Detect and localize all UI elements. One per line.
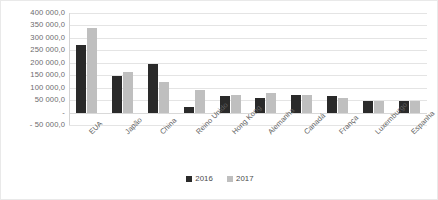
legend-label: 2017 <box>236 174 254 183</box>
y-axis-tick-label: 250 000,0 <box>1 46 65 54</box>
bar-2017 <box>123 72 133 112</box>
x-axis-tick: China <box>141 125 177 171</box>
bar-group <box>176 13 212 125</box>
x-axis-tick: Canadá <box>284 125 320 171</box>
x-axis-tick: Japão <box>105 125 141 171</box>
x-axis-tick: Hong Kong <box>212 125 248 171</box>
y-axis-tick-label: 200 000,0 <box>1 59 65 67</box>
bar-2016 <box>148 64 158 113</box>
x-axis-tick: Luxemburgo <box>355 125 391 171</box>
bar-2016 <box>184 107 194 113</box>
bar-2016 <box>76 45 86 112</box>
y-axis: 400 000,0350 000,0300 000,0250 000,0200 … <box>1 13 65 125</box>
bar-2017 <box>302 95 312 112</box>
y-axis-tick-label: 50 000,0 <box>1 96 65 104</box>
bar-group <box>320 13 356 125</box>
bars-layer <box>69 13 427 125</box>
bar-group <box>105 13 141 125</box>
bar-2016 <box>327 96 337 112</box>
y-axis-tick-label: 300 000,0 <box>1 34 65 42</box>
legend-item-2016[interactable]: 2016 <box>186 174 213 183</box>
legend-item-2017[interactable]: 2017 <box>227 174 254 183</box>
y-axis-tick-label: 100 000,0 <box>1 84 65 92</box>
chart-legend: 20162017 <box>1 174 438 183</box>
x-axis-tick: Reino Unido <box>176 125 212 171</box>
legend-swatch-icon <box>186 176 192 182</box>
bar-2016 <box>363 101 373 113</box>
bar-2017 <box>266 93 276 113</box>
bar-2017 <box>410 101 420 113</box>
bar-2016 <box>112 76 122 113</box>
legend-label: 2016 <box>195 174 213 183</box>
x-axis-tick: França <box>320 125 356 171</box>
bar-group <box>69 13 105 125</box>
bar-group <box>355 13 391 125</box>
y-axis-tick-label: - <box>1 109 65 117</box>
bar-2017 <box>374 101 384 113</box>
bar-2017 <box>159 82 169 113</box>
bar-2017 <box>338 98 348 112</box>
y-axis-tick-label: 350 000,0 <box>1 21 65 29</box>
x-axis-tick: Alemanha <box>248 125 284 171</box>
bar-2017 <box>231 95 241 113</box>
x-axis-tick: EUA <box>69 125 105 171</box>
bar-2017 <box>195 90 205 113</box>
y-axis-tick-label: 400 000,0 <box>1 9 65 17</box>
bar-group <box>141 13 177 125</box>
legend-swatch-icon <box>227 176 233 182</box>
bar-2017 <box>87 28 97 112</box>
y-axis-tick-label: 150 000,0 <box>1 71 65 79</box>
x-axis-tick: Espanha <box>391 125 427 171</box>
bar-chart: 400 000,0350 000,0300 000,0250 000,0200 … <box>0 0 438 200</box>
x-axis: EUAJapãoChinaReino UnidoHong KongAlemanh… <box>69 125 427 171</box>
y-axis-tick-label: - 50 000,0 <box>1 121 65 129</box>
